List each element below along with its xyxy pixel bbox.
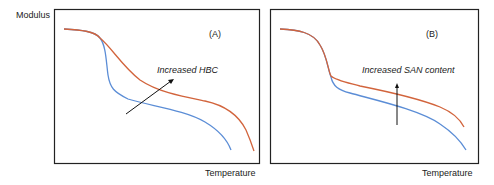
arrow-head-icon xyxy=(395,83,399,88)
panel-a-label: (A) xyxy=(209,29,221,39)
panel-b-annotation: Increased SAN content xyxy=(362,65,455,75)
panel-a: (A) Increased HBC Temperature xyxy=(55,10,260,179)
panel-b-blue-curve xyxy=(280,29,466,150)
panel-b-label: (B) xyxy=(426,29,438,39)
panel-b-frame xyxy=(271,10,479,164)
increase-arrow-shaft xyxy=(126,81,171,114)
panel-b-x-axis-label: Temperature xyxy=(422,168,473,178)
panel-b: (B) Increased SAN content Temperature xyxy=(271,10,479,179)
panel-a-x-axis-label: Temperature xyxy=(205,168,256,178)
panel-a-annotation: Increased HBC xyxy=(157,65,219,75)
panel-a-frame xyxy=(55,10,260,164)
figure: Modulus (A) Increased HBC Temperature (B… xyxy=(0,0,494,185)
y-axis-label: Modulus xyxy=(16,10,51,20)
panel-b-red-curve xyxy=(280,29,464,127)
arrow-head-icon xyxy=(168,79,174,84)
panel-a-blue-curve xyxy=(64,29,231,150)
